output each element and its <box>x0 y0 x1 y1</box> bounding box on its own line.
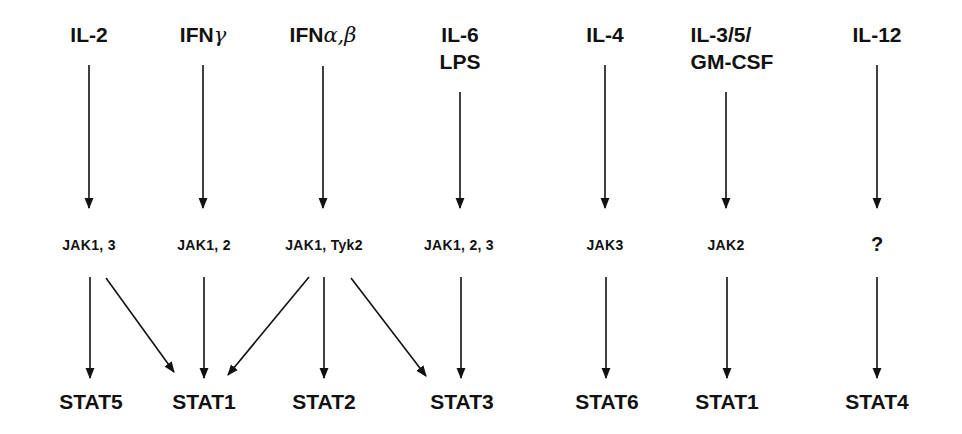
cytokine-label: IFN <box>290 23 324 46</box>
cytokine-il3-5-gmcsf: IL-3/5/ GM-CSF <box>691 21 774 75</box>
jak-label-ifnab: JAK1, Tyk2 <box>285 237 362 253</box>
cytokine-greek-suffix: γ <box>214 23 227 47</box>
cytokine-ifnab: IFNα,β <box>290 21 357 49</box>
cytokine-label: IFN <box>180 23 214 46</box>
stat-label-stat5: STAT5 <box>59 390 122 414</box>
stat-label-stat4: STAT4 <box>845 390 908 414</box>
cytokine-label: IL-6 <box>440 21 481 48</box>
arrow-jak13-to-stat1 <box>106 278 174 372</box>
cytokine-label: IL-3/5/ <box>691 21 774 48</box>
arrow-jak1tyk2-to-stat3 <box>351 278 426 376</box>
cytokine-il4: IL-4 <box>586 21 623 48</box>
stat-label-stat1-gmcsf: STAT1 <box>695 390 758 414</box>
cytokine-label-line2: GM-CSF <box>691 48 774 75</box>
cytokine-ifng: IFNγ <box>180 21 226 49</box>
jak-label-il6: JAK1, 2, 3 <box>424 237 494 253</box>
jak-label-ifng: JAK1, 2 <box>177 237 230 253</box>
stat-label-stat2: STAT2 <box>292 390 355 414</box>
jak-label-unknown: ? <box>871 233 883 256</box>
cytokine-il6-lps: IL-6 LPS <box>440 21 481 75</box>
arrow-jak1tyk2-to-stat1 <box>228 277 309 375</box>
jak-label-il3: JAK2 <box>708 237 745 253</box>
stat-label-stat3: STAT3 <box>430 390 493 414</box>
arrows-layer <box>0 0 962 434</box>
jak-label-il2: JAK1, 3 <box>62 237 115 253</box>
cytokine-il2: IL-2 <box>70 21 107 48</box>
stat-label-stat6: STAT6 <box>575 390 638 414</box>
stat-label-stat1: STAT1 <box>172 390 235 414</box>
cytokine-il12: IL-12 <box>852 21 901 48</box>
cytokine-greek-suffix: α,β <box>323 23 356 47</box>
cytokine-label: IL-12 <box>852 23 901 46</box>
cytokine-label-line2: LPS <box>440 48 481 75</box>
cytokine-label: IL-2 <box>70 23 107 46</box>
jak-label-il4: JAK3 <box>587 237 624 253</box>
cytokine-label: IL-4 <box>586 23 623 46</box>
